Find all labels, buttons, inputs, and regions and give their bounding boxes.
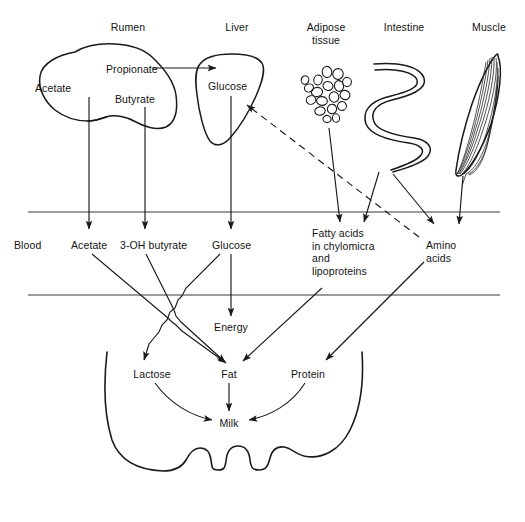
flow-3oh-butyrate-to-fat — [146, 254, 225, 362]
product-label-lactose: Lactose — [133, 368, 170, 381]
metabolite-label-fatty-acids: Fatty acids in chylomicra and lipoprotei… — [312, 227, 375, 277]
product-label-fat: Fat — [221, 368, 236, 381]
metabolite-label-3oh-butyrate: 3-OH butyrate — [120, 239, 187, 252]
metabolite-label-acetate-blood: Acetate — [71, 239, 107, 252]
metabolite-label-acetate-rumen: Acetate — [35, 82, 71, 95]
product-label-protein: Protein — [291, 368, 325, 381]
flow-acetate-to-fat — [92, 254, 226, 363]
flow-fatty-acids-to-fat — [243, 288, 322, 361]
product-label-milk: Milk — [219, 417, 238, 430]
flow-muscle-to-amino-acids — [459, 176, 463, 224]
blood-compartment-label: Blood — [14, 239, 41, 252]
organ-label-liver: Liver — [225, 21, 248, 34]
intestine-shape — [365, 64, 430, 172]
metabolic-pathway-diagram: Rumen Liver Adipose tissue Intestine Mus… — [0, 0, 525, 522]
organ-label-intestine: Intestine — [384, 21, 425, 34]
metabolite-label-glucose-blood: Glucose — [212, 239, 251, 252]
organ-label-muscle: Muscle — [472, 21, 506, 34]
metabolite-label-amino-acids: Amino acids — [426, 239, 456, 264]
flow-amino-acids-to-liver-glucose — [247, 105, 419, 237]
adipose-tissue-shape — [300, 66, 352, 123]
flow-lactose-to-milk — [155, 383, 212, 420]
metabolite-label-glucose-liver: Glucose — [208, 80, 247, 93]
organ-label-rumen: Rumen — [111, 21, 145, 34]
flow-intestine-to-amino-acids — [393, 174, 434, 224]
organ-label-adipose-tissue: Adipose tissue — [307, 21, 346, 46]
product-label-energy: Energy — [214, 321, 248, 334]
flow-protein-to-milk — [249, 383, 305, 420]
metabolite-label-propionate: Propionate — [106, 63, 158, 76]
metabolite-label-butyrate: Butyrate — [115, 93, 155, 106]
muscle-shape — [456, 54, 501, 186]
